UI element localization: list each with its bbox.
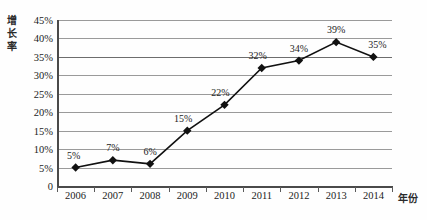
- y-tick-label-40: 40%: [19, 33, 53, 44]
- y-tick-label-15: 15%: [19, 125, 53, 136]
- y-tick-label-5: 5%: [19, 162, 53, 173]
- y-tick-label-45: 45%: [19, 15, 53, 26]
- x-tick-mark-4: [206, 187, 207, 192]
- y-axis-tick-labels: 05%10%15%20%25%30%35%40%45%: [18, 0, 53, 220]
- data-label-2008: 6%: [143, 146, 156, 157]
- y-tick-label-30: 30%: [19, 70, 53, 81]
- plot-area: [57, 20, 392, 186]
- gridline-20: [57, 112, 392, 113]
- x-tick-mark-9: [392, 187, 393, 192]
- x-tick-mark-6: [280, 187, 281, 192]
- data-label-2010: 22%: [211, 87, 229, 98]
- data-label-2007: 7%: [106, 142, 119, 153]
- y-tick-label-25: 25%: [19, 88, 53, 99]
- y-tick-label-10: 10%: [19, 144, 53, 155]
- data-label-2012: 34%: [290, 43, 308, 54]
- data-label-2006: 5%: [67, 150, 80, 161]
- chart-screenshot: 增 长 率 05%10%15%20%25%30%35%40%45% 年份 200…: [0, 0, 427, 220]
- gridline-40: [57, 38, 392, 39]
- x-axis-line: [57, 186, 393, 188]
- gridline-5: [57, 168, 392, 169]
- x-tick-mark-2: [131, 187, 132, 192]
- x-tick-mark-1: [94, 187, 95, 192]
- data-label-2014: 35%: [368, 39, 386, 50]
- y-tick-label-35: 35%: [19, 51, 53, 62]
- y-tick-label-20: 20%: [19, 107, 53, 118]
- gridline-35: [57, 57, 392, 58]
- x-tick-mark-3: [169, 187, 170, 192]
- data-label-2011: 32%: [249, 50, 267, 61]
- y-tick-label-0: 0: [19, 181, 53, 192]
- x-axis-title: 年份: [398, 190, 418, 205]
- x-tick-mark-5: [243, 187, 244, 192]
- x-tick-label-2014: 2014: [351, 190, 395, 201]
- gridline-45: [57, 20, 392, 21]
- data-label-2013: 39%: [327, 24, 345, 35]
- x-tick-mark-0: [57, 187, 58, 192]
- data-label-2009: 15%: [174, 113, 192, 124]
- gridline-30: [57, 75, 392, 76]
- x-tick-mark-7: [318, 187, 319, 192]
- x-tick-mark-8: [355, 187, 356, 192]
- gridline-15: [57, 131, 392, 132]
- y-axis-line: [57, 20, 59, 187]
